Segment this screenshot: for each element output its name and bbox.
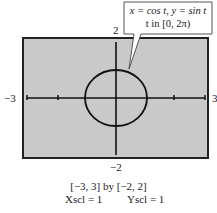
y-min-label: −2	[110, 162, 122, 173]
y-max-label: 2	[113, 25, 119, 36]
window-caption: [−3, 3] by [−2, 2]	[0, 180, 217, 192]
callout-line-1: x = cos t, y = sin t	[124, 4, 212, 17]
yscl-caption: Yscl = 1	[127, 193, 164, 205]
xscl-caption: Xscl = 1	[65, 193, 102, 205]
x-min-label: −3	[4, 93, 16, 104]
callout-line-2: t in [0, 2π)	[124, 17, 212, 30]
x-max-label: 3	[212, 93, 217, 104]
callout-text: x = cos t, y = sin t t in [0, 2π)	[124, 1, 212, 35]
